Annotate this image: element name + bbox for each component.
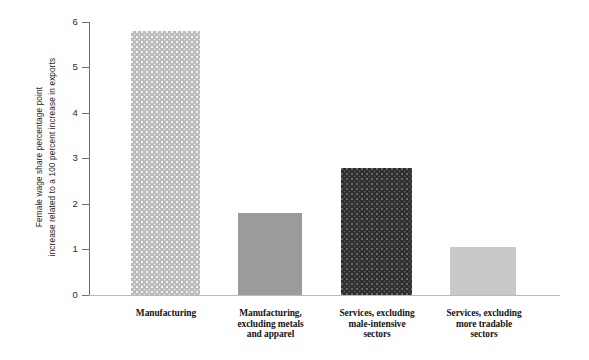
x-category-label-3-line-1: more tradable (426, 319, 542, 330)
x-category-label-3-line-2: sectors (426, 329, 542, 340)
y-tick-3 (82, 158, 89, 159)
x-category-label-2: Services, excludingmale-intensivesectors (318, 308, 436, 340)
y-tick-1 (82, 249, 89, 250)
y-tick-label-2: 2 (54, 198, 78, 209)
bar-manufacturing (131, 31, 200, 295)
x-category-label-3: Services, excludingmore tradablesectors (426, 308, 542, 340)
y-tick-4 (82, 113, 89, 114)
x-category-label-2-line-0: Services, excluding (318, 308, 436, 319)
y-axis-title-line-1: Female wage share percentage point (35, 87, 44, 227)
x-category-label-0-line-0: Manufacturing (106, 308, 226, 319)
bar-manufacturing-excl-metals-apparel (238, 213, 302, 295)
x-category-label-2-line-1: male-intensive (318, 319, 436, 330)
x-category-label-0: Manufacturing (106, 308, 226, 319)
bar-chart: Female wage share percentage point incre… (0, 0, 589, 360)
y-tick-0 (82, 295, 89, 296)
y-tick-6 (82, 22, 89, 23)
y-tick-label-6: 6 (54, 16, 78, 27)
y-tick-2 (82, 204, 89, 205)
y-tick-label-5: 5 (54, 61, 78, 72)
x-category-label-1: Manufacturing,excluding metalsand appare… (213, 308, 328, 340)
y-tick-label-3: 3 (54, 152, 78, 163)
x-category-label-1-line-2: and apparel (213, 329, 328, 340)
x-axis-baseline (89, 295, 560, 296)
y-tick-5 (82, 67, 89, 68)
x-category-label-1-line-1: excluding metals (213, 319, 328, 330)
y-tick-label-4: 4 (54, 107, 78, 118)
x-category-label-1-line-0: Manufacturing, (213, 308, 328, 319)
plot-area (89, 22, 560, 295)
y-tick-label-0: 0 (54, 289, 78, 300)
y-tick-label-1: 1 (54, 243, 78, 254)
x-category-label-3-line-0: Services, excluding (426, 308, 542, 319)
bar-services-excl-male-intensive (341, 168, 412, 295)
x-category-label-2-line-2: sectors (318, 329, 436, 340)
bar-services-excl-more-tradable (450, 247, 516, 295)
